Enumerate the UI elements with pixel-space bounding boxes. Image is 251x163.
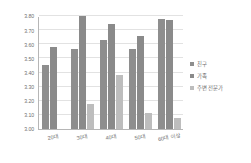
legend-item: 주변 전문가 bbox=[190, 84, 250, 91]
bar bbox=[50, 47, 57, 129]
bar-group bbox=[97, 17, 126, 129]
bar-group bbox=[39, 17, 68, 129]
plot-area bbox=[38, 17, 183, 130]
y-axis-tick-label: 3.60 bbox=[4, 43, 34, 48]
bar bbox=[79, 16, 86, 129]
bar bbox=[108, 24, 115, 129]
bar bbox=[174, 118, 181, 129]
bar bbox=[166, 20, 173, 129]
bar bbox=[137, 36, 144, 129]
legend-item: 가족 bbox=[190, 72, 250, 79]
legend-swatch-icon bbox=[190, 62, 194, 66]
legend-label: 친구 bbox=[197, 61, 207, 67]
bar-group bbox=[155, 17, 184, 129]
bar bbox=[100, 40, 107, 129]
y-axis-tick-label: 3.10 bbox=[4, 113, 34, 118]
bar bbox=[87, 104, 94, 129]
chart-legend: 친구가족주변 전문가 bbox=[190, 60, 250, 96]
legend-item: 친구 bbox=[190, 60, 250, 67]
bar-group bbox=[126, 17, 155, 129]
gridline bbox=[39, 15, 183, 16]
y-axis-tick-label: 3.70 bbox=[4, 29, 34, 34]
bar bbox=[145, 113, 152, 129]
y-axis-tick-label: 3.00 bbox=[4, 127, 34, 132]
bar-chart: 3.803.703.603.503.403.303.203.103.00 20대… bbox=[0, 0, 251, 163]
legend-label: 주변 전문가 bbox=[197, 85, 224, 91]
y-axis-tick-label: 3.50 bbox=[4, 57, 34, 62]
bar-group bbox=[68, 17, 97, 129]
y-axis-tick-label: 3.40 bbox=[4, 71, 34, 76]
y-axis-tick-label: 3.20 bbox=[4, 99, 34, 104]
bar bbox=[116, 75, 123, 129]
legend-label: 가족 bbox=[197, 73, 207, 79]
bar bbox=[71, 49, 78, 130]
bar bbox=[42, 65, 49, 129]
legend-swatch-icon bbox=[190, 86, 194, 90]
y-axis-tick-label: 3.30 bbox=[4, 85, 34, 90]
bar bbox=[129, 49, 136, 130]
y-axis-tick-label: 3.80 bbox=[4, 14, 34, 19]
bar bbox=[158, 19, 165, 129]
legend-swatch-icon bbox=[190, 74, 194, 78]
